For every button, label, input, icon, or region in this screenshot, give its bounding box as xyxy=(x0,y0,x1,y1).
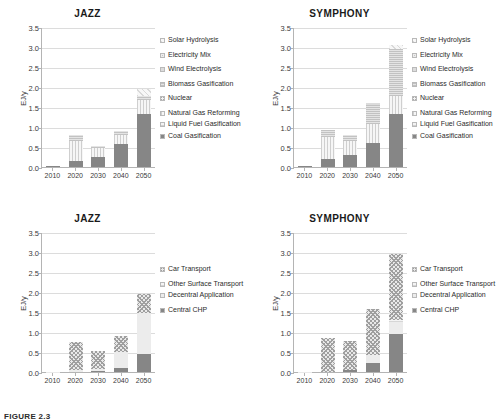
legend-item[interactable]: Nuclear xyxy=(412,94,504,103)
bar-segment[interactable] xyxy=(114,352,128,369)
stacked-bar[interactable] xyxy=(69,135,83,167)
bar-segment[interactable] xyxy=(366,105,380,123)
bar-segment[interactable] xyxy=(389,114,403,167)
stacked-bar[interactable] xyxy=(321,338,335,372)
bar-segment[interactable] xyxy=(91,157,105,167)
bar-segment[interactable] xyxy=(91,371,105,372)
bar-column[interactable] xyxy=(42,233,65,372)
bar-segment[interactable] xyxy=(366,143,380,167)
legend-item[interactable]: Electricity Mix xyxy=(412,51,504,60)
stacked-bar[interactable] xyxy=(343,135,357,167)
stacked-bar[interactable] xyxy=(91,146,105,167)
bar-segment[interactable] xyxy=(389,96,403,114)
bar-column[interactable] xyxy=(87,28,110,167)
legend-item[interactable]: Car Transport xyxy=(160,265,252,274)
bar-segment[interactable] xyxy=(298,166,312,167)
bar-segment[interactable] xyxy=(91,351,105,369)
stacked-bar[interactable] xyxy=(137,294,151,372)
legend-item[interactable]: Liquid Fuel Gasification xyxy=(160,120,252,129)
legend-item[interactable]: Coal Gasification xyxy=(160,132,252,141)
legend-item[interactable]: Other Surface Transport xyxy=(412,280,504,289)
legend-item[interactable]: Solar Hydrolysis xyxy=(160,36,252,45)
bar-column[interactable] xyxy=(317,28,340,167)
legend-item[interactable]: Coal Gasification xyxy=(412,132,504,141)
bar-segment[interactable] xyxy=(389,254,403,320)
bar-column[interactable] xyxy=(339,233,362,372)
bar-segment[interactable] xyxy=(69,141,83,162)
legend-item[interactable]: Central CHP xyxy=(412,306,504,315)
bar-segment[interactable] xyxy=(366,355,380,363)
bar-column[interactable] xyxy=(110,233,133,372)
bar-segment[interactable] xyxy=(137,294,151,313)
bar-column[interactable] xyxy=(132,233,155,372)
stacked-bar[interactable] xyxy=(91,351,105,372)
legend-item[interactable]: Natural Gas Reforming xyxy=(160,109,252,118)
bar-segment[interactable] xyxy=(69,161,83,167)
bar-column[interactable] xyxy=(87,233,110,372)
bar-column[interactable] xyxy=(42,28,65,167)
legend-item[interactable]: Car Transport xyxy=(412,265,504,274)
stacked-bar[interactable] xyxy=(46,166,60,167)
bar-segment[interactable] xyxy=(114,135,128,144)
bar-segment[interactable] xyxy=(366,363,380,372)
legend-item[interactable]: Other Surface Transport xyxy=(160,280,252,289)
stacked-bar[interactable] xyxy=(343,341,357,372)
stacked-bar[interactable] xyxy=(389,45,403,167)
legend-item[interactable]: Biomass Gasification xyxy=(160,80,252,89)
bar-segment[interactable] xyxy=(137,114,151,167)
legend-item[interactable]: Decentral Application xyxy=(160,291,252,300)
legend-item[interactable]: Solar Hydrolysis xyxy=(412,36,504,45)
stacked-bar[interactable] xyxy=(114,336,128,372)
legend-item[interactable]: Nuclear xyxy=(160,94,252,103)
bar-segment[interactable] xyxy=(321,137,335,160)
legend-item[interactable]: Biomass Gasification xyxy=(412,80,504,89)
bar-segment[interactable] xyxy=(69,370,83,372)
bar-segment[interactable] xyxy=(137,100,151,114)
bar-column[interactable] xyxy=(339,28,362,167)
stacked-bar[interactable] xyxy=(389,254,403,372)
stacked-bar[interactable] xyxy=(366,309,380,372)
bar-column[interactable] xyxy=(362,28,385,167)
bar-segment[interactable] xyxy=(137,89,151,96)
bar-segment[interactable] xyxy=(137,313,151,354)
legend-item[interactable]: Decentral Application xyxy=(412,291,504,300)
bar-segment[interactable] xyxy=(46,166,60,167)
bar-segment[interactable] xyxy=(389,49,403,96)
legend-item[interactable]: Central CHP xyxy=(160,306,252,315)
bar-segment[interactable] xyxy=(137,354,151,372)
bar-segment[interactable] xyxy=(343,370,357,372)
bar-column[interactable] xyxy=(362,233,385,372)
bar-segment[interactable] xyxy=(321,159,335,167)
bar-column[interactable] xyxy=(384,233,407,372)
bar-segment[interactable] xyxy=(343,141,357,155)
legend-item[interactable]: Wind Electrolysis xyxy=(412,65,504,74)
stacked-bar[interactable] xyxy=(114,131,128,167)
bar-segment[interactable] xyxy=(366,309,380,355)
bar-column[interactable] xyxy=(132,28,155,167)
bar-segment[interactable] xyxy=(91,148,105,157)
bar-segment[interactable] xyxy=(389,334,403,372)
bar-column[interactable] xyxy=(317,233,340,372)
stacked-bar[interactable] xyxy=(69,342,83,372)
bar-segment[interactable] xyxy=(366,124,380,143)
bar-segment[interactable] xyxy=(114,368,128,372)
legend-item[interactable]: Wind Electrolysis xyxy=(160,65,252,74)
stacked-bar[interactable] xyxy=(366,103,380,167)
legend-item[interactable]: Electricity Mix xyxy=(160,51,252,60)
bar-column[interactable] xyxy=(110,28,133,167)
bar-column[interactable] xyxy=(65,233,88,372)
stacked-bar[interactable] xyxy=(298,166,312,167)
bar-column[interactable] xyxy=(294,233,317,372)
stacked-bar[interactable] xyxy=(321,130,335,167)
bar-segment[interactable] xyxy=(389,322,403,334)
bar-segment[interactable] xyxy=(114,336,128,352)
stacked-bar[interactable] xyxy=(137,89,151,167)
bar-column[interactable] xyxy=(65,28,88,167)
bar-segment[interactable] xyxy=(321,338,335,372)
bar-segment[interactable] xyxy=(114,144,128,167)
bar-segment[interactable] xyxy=(343,341,357,371)
bar-segment[interactable] xyxy=(321,130,335,137)
bar-segment[interactable] xyxy=(69,342,83,370)
bar-segment[interactable] xyxy=(343,155,357,167)
bar-column[interactable] xyxy=(294,28,317,167)
